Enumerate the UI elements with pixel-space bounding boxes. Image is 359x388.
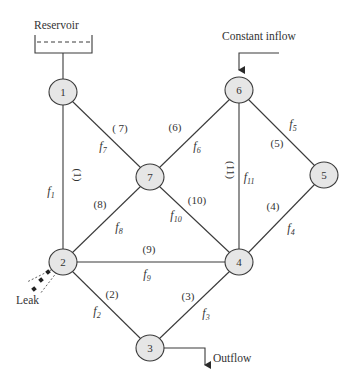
- pipe-id-9: (9): [143, 243, 156, 256]
- svg-text:1: 1: [60, 86, 66, 98]
- pipe-id-3: (3): [182, 290, 195, 303]
- leak-drop-icon: [31, 286, 37, 292]
- reservoir-label: Reservoir: [34, 19, 79, 31]
- flow-labels: f1 f2 f3 f4 f5 f6 f7 f8 f9 f10 f11: [47, 117, 296, 322]
- inflow: Constant inflow: [222, 30, 296, 70]
- outflow-arrow-icon: [163, 348, 205, 365]
- svg-text:7: 7: [147, 171, 153, 183]
- outflow-label: Outflow: [213, 352, 252, 364]
- pipe-id-10: (10): [188, 194, 207, 207]
- node-5: 5: [310, 162, 338, 188]
- pipe-id-6: (6): [169, 121, 182, 134]
- pipe-5: [248, 99, 315, 166]
- pipe-id-2: (2): [106, 288, 119, 301]
- pipe-8: [72, 186, 141, 253]
- leak-spray-line-lower: [40, 272, 57, 294]
- flow-f7: f7: [99, 139, 107, 155]
- pipe-id-1: (1): [71, 169, 84, 182]
- inflow-arrow-icon: [239, 53, 279, 70]
- pipe-id-8: (8): [94, 198, 107, 211]
- flow-f9: f9: [143, 267, 150, 283]
- node-2: 2: [49, 249, 77, 275]
- pipe-id-4: (4): [267, 200, 280, 213]
- flow-f8: f8: [115, 220, 122, 236]
- node-3: 3: [136, 335, 164, 361]
- leak-drop-icon: [38, 277, 44, 283]
- svg-text:6: 6: [236, 84, 242, 96]
- svg-text:3: 3: [147, 342, 153, 354]
- pipe-id-5: (5): [271, 137, 284, 150]
- reservoir: Reservoir: [34, 19, 92, 79]
- pipe-id-11: (11): [224, 161, 237, 179]
- pipe-4: [248, 184, 315, 253]
- flow-f11: f11: [244, 170, 255, 186]
- svg-text:2: 2: [60, 256, 66, 268]
- leak: Leak: [16, 268, 57, 306]
- leak-label: Leak: [16, 294, 39, 306]
- outflow: Outflow: [163, 348, 252, 365]
- flow-f2: f2: [93, 304, 100, 320]
- flow-f6: f6: [193, 139, 200, 155]
- flow-f4: f4: [287, 221, 294, 237]
- inflow-label: Constant inflow: [222, 30, 296, 42]
- flow-f10: f10: [170, 208, 181, 224]
- pipe-3: [159, 271, 230, 339]
- pipe-6: [159, 99, 230, 168]
- flow-f1: f1: [47, 184, 54, 200]
- leak-drop-icon: [45, 269, 51, 275]
- pipe-7: [72, 101, 141, 168]
- pipes: [63, 99, 315, 339]
- water-network-diagram: Reservoir Constant inflow Outflow (1) (2…: [0, 0, 359, 388]
- node-1: 1: [49, 79, 77, 105]
- pipe-2: [72, 271, 141, 339]
- node-7: 7: [136, 164, 164, 190]
- flow-f3: f3: [202, 306, 209, 322]
- node-4: 4: [225, 249, 253, 275]
- reservoir-tank-icon: [35, 35, 92, 53]
- pipe-id-7: ( 7): [112, 122, 128, 135]
- svg-text:4: 4: [236, 256, 242, 268]
- node-6: 6: [225, 77, 253, 103]
- svg-text:5: 5: [321, 169, 327, 181]
- flow-f5: f5: [289, 117, 296, 133]
